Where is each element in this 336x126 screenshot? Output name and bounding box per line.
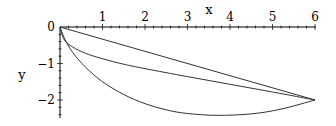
y-tick-labels: 0−1−2 (37, 20, 55, 107)
y-tick-label: 0 (47, 20, 55, 34)
series-line (60, 27, 315, 115)
x-axis-label: x (205, 2, 213, 17)
y-axis-label: y (17, 67, 26, 82)
x-tick-label: 6 (311, 10, 319, 24)
x-tick-label: 2 (141, 10, 149, 24)
series-line (60, 27, 315, 100)
plot: 123456 0−1−2 x y (0, 0, 336, 126)
x-tick-label: 4 (226, 10, 234, 24)
y-tick-label: −2 (37, 93, 55, 107)
x-tick-label: 5 (269, 10, 277, 24)
y-tick-label: −1 (37, 57, 55, 71)
x-tick-label: 1 (99, 10, 107, 24)
x-tick-label: 3 (184, 10, 192, 24)
series-group (60, 27, 315, 115)
